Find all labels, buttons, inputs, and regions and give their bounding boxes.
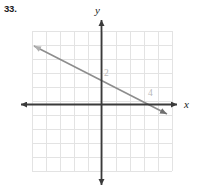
problem-number: 33. [4,4,17,14]
coordinate-plane-svg [0,0,199,190]
tick-label-x-intercept: 4 [148,89,153,99]
tick-label-y-intercept: 2 [104,69,109,79]
graph-figure: 33. [0,0,199,190]
x-axis-label: x [184,99,189,110]
y-axis-label: y [95,5,100,16]
